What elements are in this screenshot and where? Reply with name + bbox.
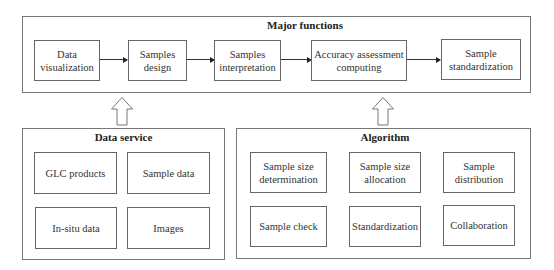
item-collaboration: Collaboration	[443, 205, 515, 246]
item-standardization: Standardization	[349, 206, 421, 247]
step-data-visualization: Data visualization	[34, 40, 100, 81]
item-glc-products: GLC products	[34, 152, 117, 194]
step-accuracy-assessment: Accuracy assessment computing	[311, 40, 407, 81]
item-in-situ-data: In-situ data	[35, 207, 117, 249]
step-samples-interpretation: Samples interpretation	[214, 40, 281, 81]
algorithm-title: Algorithm	[330, 131, 440, 143]
item-images: Images	[127, 207, 210, 249]
up-arrow-icon-left	[110, 96, 134, 126]
major-functions-title: Major functions	[230, 19, 380, 31]
item-sample-check: Sample check	[250, 206, 327, 247]
arrow-2	[187, 59, 214, 60]
item-sample-size-determination: Sample size determination	[250, 152, 327, 193]
arrow-4	[407, 59, 440, 60]
data-service-title: Data service	[22, 131, 225, 143]
arrow-3	[281, 59, 311, 60]
step-samples-design: Samples design	[128, 40, 187, 81]
item-sample-distribution: Sample distribution	[443, 152, 515, 193]
up-arrow-icon-right	[371, 96, 395, 126]
item-sample-data: Sample data	[127, 152, 210, 194]
arrow-1	[100, 59, 127, 60]
step-sample-standardization: Sample standardization	[441, 39, 521, 80]
item-sample-size-allocation: Sample size allocation	[349, 152, 421, 193]
